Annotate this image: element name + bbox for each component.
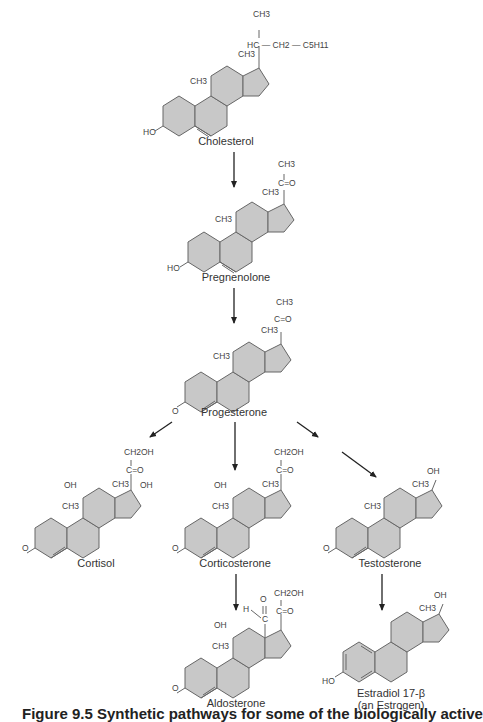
label-pregnenolone: Pregnenolone: [202, 271, 271, 283]
cholesterol-ch3-18: CH3: [238, 49, 255, 59]
aldosterone-oxo: O: [172, 683, 179, 693]
estradiol-oh-3: HO: [322, 676, 335, 686]
corticosterone-keto: C=O: [276, 465, 294, 475]
arrow-progesterone-to-testosterone: [342, 452, 376, 477]
pregnenolone-oh: HO: [167, 263, 180, 273]
progesterone-ch3-18: CH3: [261, 325, 278, 335]
corticosterone-oxo: O: [172, 543, 179, 553]
label-progesterone: Progesterone: [201, 406, 267, 418]
aldosterone-ch2oh: CH2OH: [274, 588, 304, 598]
progesterone-ch3-19: CH3: [213, 351, 230, 361]
testosterone-ch3-19: CH3: [364, 501, 381, 511]
cortisol-ch2oh: CH2OH: [124, 447, 154, 457]
arrow-progesterone-to-testosterone-1: [297, 422, 318, 437]
estradiol-ch3-18: CH3: [419, 603, 436, 613]
aldosterone-ald-c: C: [262, 614, 268, 624]
cortisol-ch3-19: CH3: [62, 501, 79, 511]
cholesterol-ch3-top: CH3: [253, 9, 270, 19]
cortisol-oxo: O: [22, 543, 29, 553]
compound-testosterone: [328, 480, 442, 558]
aldosterone-oh-11: OH: [214, 620, 227, 630]
label-cholesterol: Cholesterol: [198, 135, 254, 147]
aldosterone-ald-o: O: [260, 594, 267, 604]
estradiol-oh-17: OH: [434, 590, 447, 600]
figure-caption: Figure 9.5 Synthetic pathways for some o…: [22, 705, 483, 722]
compound-corticosterone: [177, 460, 291, 558]
compound-aldosterone: [177, 600, 291, 698]
pregnenolone-ch3-19: CH3: [215, 214, 232, 224]
cortisol-ch3-18: CH3: [112, 479, 129, 489]
label-estradiol: Estradiol 17-β: [357, 687, 425, 699]
corticosterone-ch3-19: CH3: [212, 501, 229, 511]
compound-cortisol: [27, 460, 141, 558]
corticosterone-ch2oh: CH2OH: [274, 447, 304, 457]
progesterone-ch3-top: CH3: [276, 297, 293, 307]
cholesterol-ch3-19: CH3: [190, 76, 207, 86]
aldosterone-keto: C=O: [276, 606, 294, 616]
label-testosterone: Testosterone: [359, 557, 422, 569]
arrow-progesterone-to-cortisol: [150, 422, 172, 437]
compound-progesterone: [177, 332, 291, 412]
cholesterol-oh: HO: [143, 127, 156, 137]
testosterone-ch3-18: CH3: [412, 479, 429, 489]
cortisol-keto: C=O: [126, 465, 144, 475]
label-cortisol: Cortisol: [77, 557, 114, 569]
cholesterol-side-chain: HC — CH2 — C5H11: [247, 40, 329, 50]
pregnenolone-ch3-18: CH3: [262, 187, 279, 197]
testosterone-oxo: O: [323, 543, 330, 553]
testosterone-oh-17: OH: [427, 466, 440, 476]
cortisol-oh-11: OH: [64, 480, 77, 490]
aldosterone-ald-h: H: [243, 604, 249, 614]
progesterone-oxo: O: [172, 406, 179, 416]
progesterone-keto: C=O: [274, 314, 292, 324]
corticosterone-oh-11: OH: [214, 480, 227, 490]
label-corticosterone: Corticosterone: [199, 557, 271, 569]
pregnenolone-keto: C=O: [278, 178, 296, 188]
pregnenolone-ch3-top: CH3: [278, 159, 295, 169]
corticosterone-ch3-18: CH3: [262, 479, 279, 489]
cortisol-oh-17: OH: [140, 480, 153, 490]
aldosterone-ch3-19: CH3: [212, 641, 229, 651]
compound-estradiol: [335, 604, 449, 682]
